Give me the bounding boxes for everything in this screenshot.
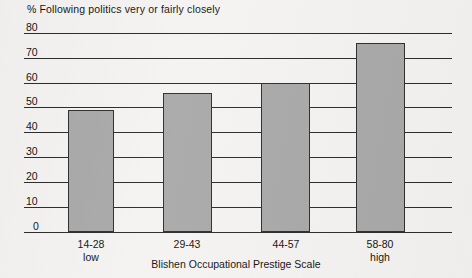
plot-area: 80 70 60 50 40 30 20 10 0 14-28 low 29-4… xyxy=(0,0,472,278)
ytick-label-80: 80 xyxy=(26,21,38,33)
ytick-label-10: 10 xyxy=(26,195,38,207)
ytick-label-50: 50 xyxy=(26,95,38,107)
bar-1 xyxy=(163,93,212,232)
gridline-0 xyxy=(24,232,452,233)
ytick-label-20: 20 xyxy=(26,170,38,182)
gridline-80 xyxy=(24,33,452,34)
xtick-range-0: 14-28 xyxy=(78,238,105,250)
ytick-label-60: 60 xyxy=(26,71,38,83)
bar-2 xyxy=(261,83,310,232)
ytick-label-70: 70 xyxy=(26,46,38,58)
bar-0 xyxy=(68,110,114,232)
x-axis-title: Blishen Occupational Prestige Scale xyxy=(0,258,472,270)
bar-3 xyxy=(356,43,405,232)
xtick-range-3: 58-80 xyxy=(367,238,394,250)
ytick-label-0: 0 xyxy=(33,220,39,232)
ytick-label-30: 30 xyxy=(26,145,38,157)
xtick-label-1: 29-43 xyxy=(152,238,222,251)
bar-chart: % Following politics very or fairly clos… xyxy=(0,0,472,278)
xtick-range-2: 44-57 xyxy=(273,238,300,250)
xtick-label-2: 44-57 xyxy=(251,238,321,251)
xtick-range-1: 29-43 xyxy=(174,238,201,250)
ytick-label-40: 40 xyxy=(26,120,38,132)
